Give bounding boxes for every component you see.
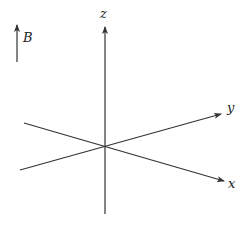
z-axis-label: z [99,6,107,21]
coordinate-diagram: B z y x [0,0,250,226]
b-field-label: B [22,30,33,45]
x-axis [24,123,224,181]
y-axis [20,114,221,170]
y-axis-label: y [226,100,235,115]
x-axis-label: x [228,176,236,191]
